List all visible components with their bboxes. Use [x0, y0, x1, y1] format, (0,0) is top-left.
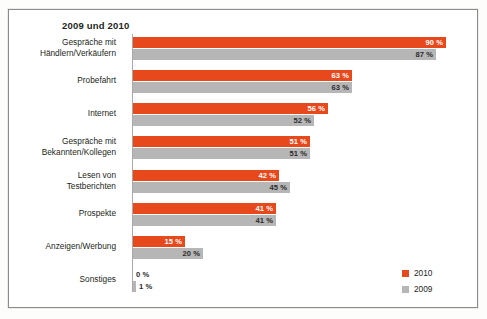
bar-group: 56 %52 % — [133, 100, 477, 131]
bar-group: 51 %51 % — [133, 133, 477, 164]
bar-2009: 45 % — [133, 182, 290, 193]
bar-value-label: 42 % — [258, 171, 279, 180]
bar-value-label: 87 % — [415, 50, 436, 59]
category-row: Prospekte41 %41 % — [9, 200, 477, 231]
category-label: Probefahrt — [0, 75, 116, 86]
bar-2010: 42 % — [133, 170, 279, 181]
legend-swatch-2009 — [402, 286, 409, 293]
category-label: Internet — [0, 108, 116, 119]
bar-value-label: 20 % — [182, 249, 203, 258]
bar-2009: 63 % — [133, 82, 352, 93]
category-label-line: Internet — [0, 108, 116, 119]
category-row: Gespräche mitBekannten/Kollegen51 %51 % — [9, 133, 477, 164]
category-label: Lesen vonTestberichten — [0, 170, 116, 191]
bar-value-label: 41 % — [255, 216, 276, 225]
bar-2009: 87 % — [133, 49, 436, 60]
bar-2009: 41 % — [133, 215, 276, 226]
bar-value-label: 1 % — [136, 282, 152, 291]
bar-group: 15 %20 % — [133, 233, 477, 264]
chart-frame: 2009 und 2010 Gespräche mitHändlern/Verk… — [8, 9, 478, 308]
category-label-line: Bekannten/Kollegen — [0, 147, 116, 158]
bar-value-label: 63 % — [331, 83, 352, 92]
bar-group: 90 %87 % — [133, 34, 477, 65]
bar-value-label: 90 % — [425, 38, 446, 47]
bar-2009: 52 % — [133, 115, 314, 126]
category-row: Lesen vonTestberichten42 %45 % — [9, 167, 477, 198]
category-row: Probefahrt63 %63 % — [9, 67, 477, 98]
bar-2010: 90 % — [133, 37, 446, 48]
category-label: Gespräche mitBekannten/Kollegen — [0, 136, 116, 157]
bar-value-label: 45 % — [269, 183, 290, 192]
category-label-line: Probefahrt — [0, 75, 116, 86]
bar-2010: 15 % — [133, 236, 185, 247]
category-label-line: Gespräche mit — [0, 136, 116, 147]
category-label: Anzeigen/Werbung — [0, 241, 116, 252]
category-label-line: Sonstiges — [0, 274, 116, 285]
category-label: Prospekte — [0, 208, 116, 219]
bar-2010: 56 % — [133, 103, 328, 114]
plot-area: Gespräche mitHändlern/Verkäufern90 %87 %… — [9, 10, 477, 307]
category-label-line: Gespräche mit — [0, 37, 116, 48]
category-label-line: Anzeigen/Werbung — [0, 241, 116, 252]
bar-value-label: 56 % — [307, 104, 328, 113]
category-label: Gespräche mitHändlern/Verkäufern — [0, 37, 116, 58]
bar-value-label: 15 % — [164, 237, 185, 246]
bar-2009: 51 % — [133, 148, 310, 159]
bar-value-label: 41 % — [255, 204, 276, 213]
legend-swatch-2010 — [402, 270, 409, 277]
bar-value-label: 52 % — [293, 116, 314, 125]
category-row: Gespräche mitHändlern/Verkäufern90 %87 % — [9, 34, 477, 65]
bar-value-label: 51 % — [289, 137, 310, 146]
bar-value-label: 0 % — [133, 270, 149, 279]
category-label: Sonstiges — [0, 274, 116, 285]
bar-value-label: 63 % — [331, 71, 352, 80]
category-label-line: Händlern/Verkäufern — [0, 48, 116, 59]
category-row: Anzeigen/Werbung15 %20 % — [9, 233, 477, 264]
legend-label: 2010 — [414, 268, 432, 278]
bar-value-label: 51 % — [289, 149, 310, 158]
bar-group: 63 %63 % — [133, 67, 477, 98]
bar-group: 42 %45 % — [133, 167, 477, 198]
category-label-line: Testberichten — [0, 181, 116, 192]
legend-label: 2009 — [414, 284, 432, 294]
bar-2010: 51 % — [133, 136, 310, 147]
category-row: Internet56 %52 % — [9, 100, 477, 131]
category-label-line: Prospekte — [0, 208, 116, 219]
bar-2010: 41 % — [133, 203, 276, 214]
bar-2010: 63 % — [133, 70, 352, 81]
bar-2009: 20 % — [133, 248, 203, 259]
legend-entry[interactable]: 2009 — [402, 281, 432, 297]
chart-figure: 2009 und 2010 Gespräche mitHändlern/Verk… — [0, 0, 487, 319]
bar-group: 41 %41 % — [133, 200, 477, 231]
category-label-line: Lesen von — [0, 170, 116, 181]
chart-legend: 20102009 — [402, 265, 432, 297]
legend-entry[interactable]: 2010 — [402, 265, 432, 281]
bar-2009: 1 % — [133, 281, 136, 292]
